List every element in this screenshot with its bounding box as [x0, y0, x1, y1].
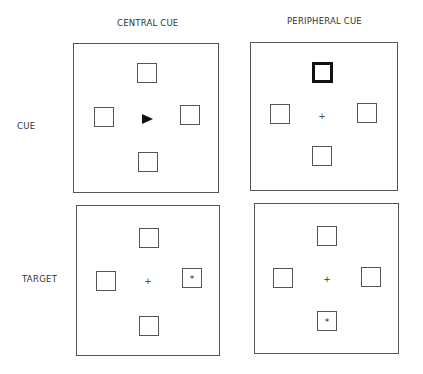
- row-label-target: TARGET: [22, 274, 57, 284]
- column-label-central-cue: CENTRAL CUE: [117, 18, 178, 28]
- location-box-bottom-target: *: [317, 311, 337, 331]
- location-box-left: [270, 104, 290, 124]
- location-box-right: [180, 105, 200, 125]
- panel-peripheral-cue: +: [250, 42, 398, 191]
- location-box-left: [96, 271, 116, 291]
- location-box-right: [361, 267, 381, 287]
- location-box-bottom: [138, 152, 158, 172]
- location-box-top: [317, 226, 337, 246]
- location-box-bottom: [139, 316, 159, 336]
- fixation-cross-icon: +: [318, 112, 326, 121]
- target-asterisk-icon: *: [190, 275, 195, 284]
- location-box-left: [94, 107, 114, 127]
- fixation-cross-icon: +: [323, 275, 331, 284]
- panel-central-cue: [73, 43, 219, 193]
- arrow-right-icon: [142, 114, 153, 124]
- target-asterisk-icon: *: [325, 318, 330, 327]
- fixation-cross-icon: +: [144, 277, 152, 286]
- location-box-top-highlighted: [312, 62, 333, 83]
- panel-central-target: * +: [76, 205, 220, 356]
- panel-peripheral-target: * +: [254, 203, 399, 354]
- column-label-peripheral-cue: PERIPHERAL CUE: [287, 16, 362, 26]
- location-box-top: [137, 63, 157, 83]
- location-box-right: [357, 103, 377, 123]
- row-label-cue: CUE: [17, 121, 35, 131]
- location-box-bottom: [312, 146, 332, 166]
- location-box-top: [139, 228, 159, 248]
- location-box-right-target: *: [182, 268, 202, 288]
- location-box-left: [273, 268, 293, 288]
